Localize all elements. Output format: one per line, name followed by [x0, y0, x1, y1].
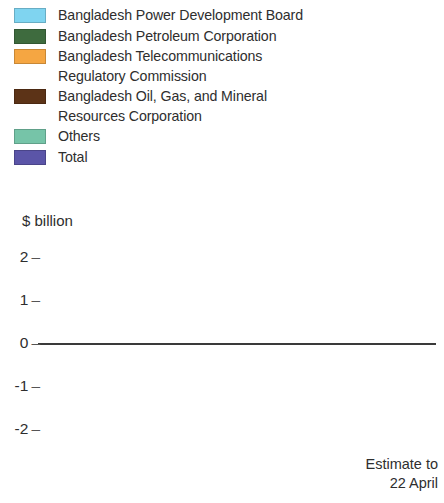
y-tick-1: 1– [20, 291, 40, 309]
legend-item-telecom: Bangladesh Telecommunications Regulatory… [14, 47, 434, 86]
y-tick-dash-icon: – [31, 248, 40, 266]
legend-label-telecom: Bangladesh Telecommunications Regulatory… [58, 47, 262, 86]
y-tick-dash-icon: – [31, 334, 40, 352]
legend-swatch-total [14, 150, 46, 165]
legend-swatch-power [14, 8, 46, 23]
estimate-footnote: Estimate to 22 April [365, 455, 438, 493]
y-tick-dash-icon: – [31, 420, 40, 438]
legend-swatch-others [14, 129, 46, 144]
y-tick-label: 1 [20, 291, 29, 308]
chart-legend: Bangladesh Power Development BoardBangla… [14, 6, 434, 168]
legend-item-petroleum: Bangladesh Petroleum Corporation [14, 27, 434, 47]
legend-swatch-telecom [14, 49, 46, 64]
legend-label-power: Bangladesh Power Development Board [58, 6, 303, 26]
legend-swatch-oilgas [14, 89, 46, 104]
legend-label-others: Others [58, 127, 100, 147]
legend-label-total: Total [58, 148, 87, 168]
legend-item-oilgas: Bangladesh Oil, Gas, and Mineral Resourc… [14, 87, 434, 126]
legend-swatch-petroleum [14, 29, 46, 44]
y-tick-label: -1 [15, 377, 29, 394]
y-tick-0: 0– [20, 334, 40, 352]
x-axis-zero-line [38, 343, 436, 345]
chart-area: $ billion 2–1–0–-1–-2– Estimate to 22 Ap… [0, 200, 444, 503]
y-axis-label: $ billion [22, 212, 73, 229]
plot-region: 2–1–0–-1–-2– [46, 245, 436, 430]
y-tick-dash-icon: – [31, 291, 40, 309]
y-tick-label: 0 [20, 334, 29, 351]
y-tick-2: 2– [20, 248, 40, 266]
legend-item-total: Total [14, 148, 434, 168]
y-tick-label: 2 [20, 248, 29, 265]
y-tick-dash-icon: – [31, 377, 40, 395]
y-tick--1: -1– [15, 377, 40, 395]
legend-item-others: Others [14, 127, 434, 147]
legend-item-power: Bangladesh Power Development Board [14, 6, 434, 26]
legend-label-oilgas: Bangladesh Oil, Gas, and Mineral Resourc… [58, 87, 267, 126]
y-tick--2: -2– [15, 420, 40, 438]
legend-label-petroleum: Bangladesh Petroleum Corporation [58, 27, 276, 47]
y-tick-label: -2 [15, 420, 29, 437]
